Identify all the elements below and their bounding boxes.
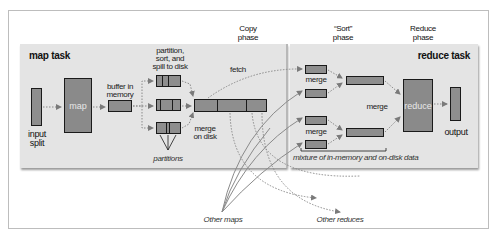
arrows-overlay — [0, 0, 497, 246]
